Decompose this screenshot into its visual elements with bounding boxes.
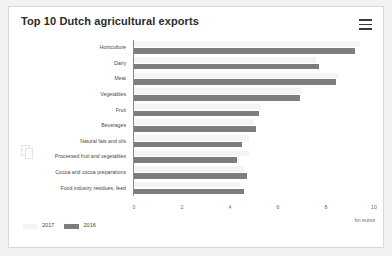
bar-group xyxy=(133,87,377,103)
menu-line-1 xyxy=(359,19,372,21)
category-row: Horticulture xyxy=(9,40,131,56)
bar-group xyxy=(133,165,377,181)
category-row: Food industry residues, feed xyxy=(9,180,131,196)
category-label: Natural fats and oils xyxy=(80,139,126,144)
bar-group xyxy=(133,40,377,56)
chart-page: Top 10 Dutch agricultural exports Hortic… xyxy=(0,0,392,256)
category-row: Fruit xyxy=(9,102,131,118)
bar-2017[interactable] xyxy=(134,57,316,63)
category-label: Dairy xyxy=(114,61,126,66)
bar-2016[interactable] xyxy=(134,142,242,148)
category-label: Fruit xyxy=(116,108,126,113)
bar-2016[interactable] xyxy=(134,126,256,132)
bar-2016[interactable] xyxy=(134,95,300,101)
category-row: Meat xyxy=(9,71,131,87)
bar-2016[interactable] xyxy=(134,189,244,195)
bar-2017[interactable] xyxy=(134,41,360,47)
axis-tick: 8 xyxy=(325,205,328,210)
chart-legend: 20172016 xyxy=(23,223,96,229)
category-label: Horticulture xyxy=(99,45,126,50)
category-label: Cocoa and cocoa preparations xyxy=(55,170,126,175)
bar-group xyxy=(133,149,377,165)
plot-area: HorticultureDairyMeatVegetablesFruitBeve… xyxy=(9,37,385,207)
bar-2016[interactable] xyxy=(134,111,259,117)
bars-container xyxy=(133,40,377,200)
bar-2016[interactable] xyxy=(134,48,355,54)
axis-tick: 2 xyxy=(181,205,184,210)
category-row: Dairy xyxy=(9,56,131,72)
bar-group xyxy=(133,180,377,196)
bar-group xyxy=(133,71,377,87)
bar-2017[interactable] xyxy=(134,182,240,188)
bar-2017[interactable] xyxy=(134,73,338,79)
legend-label: 2017 xyxy=(42,223,54,229)
category-row: Cocoa and cocoa preparations xyxy=(9,165,131,181)
axis-title: bn euros xyxy=(355,217,375,223)
bar-group xyxy=(133,134,377,150)
legend-item-2017[interactable]: 2017 xyxy=(23,223,54,229)
bar-2016[interactable] xyxy=(134,79,336,85)
cbs-logo-watermark xyxy=(21,145,32,158)
bar-group xyxy=(133,118,377,134)
category-row: Beverages xyxy=(9,118,131,134)
bar-2017[interactable] xyxy=(134,88,302,94)
legend-swatch xyxy=(23,224,38,229)
category-row: Vegetables xyxy=(9,87,131,103)
category-label: Vegetables xyxy=(100,92,126,97)
axis-tick: 0 xyxy=(133,205,136,210)
bar-2017[interactable] xyxy=(134,151,249,157)
bar-2016[interactable] xyxy=(134,157,237,163)
axis-tick: 4 xyxy=(229,205,232,210)
watermark-shape-2 xyxy=(25,148,33,159)
panel-header: Top 10 Dutch agricultural exports xyxy=(9,7,383,37)
bar-2017[interactable] xyxy=(134,119,254,125)
legend-label: 2016 xyxy=(83,223,95,229)
legend-item-2016[interactable]: 2016 xyxy=(64,223,95,229)
bar-group xyxy=(133,102,377,118)
menu-line-2 xyxy=(359,24,372,26)
legend-swatch xyxy=(64,224,79,229)
category-label: Beverages xyxy=(101,123,126,128)
category-label: Processed fruit and vegetables xyxy=(55,154,126,159)
bar-2017[interactable] xyxy=(134,104,261,110)
bar-2016[interactable] xyxy=(134,173,247,179)
value-axis-ticks: 0246810 xyxy=(133,205,377,217)
category-axis-labels: HorticultureDairyMeatVegetablesFruitBeve… xyxy=(9,40,131,196)
bar-2017[interactable] xyxy=(134,166,244,172)
category-label: Meat xyxy=(114,76,126,81)
bar-2016[interactable] xyxy=(134,64,319,70)
axis-tick: 10 xyxy=(371,205,377,210)
bar-2017[interactable] xyxy=(134,135,249,141)
bar-group xyxy=(133,56,377,72)
hamburger-menu-icon[interactable] xyxy=(359,19,372,30)
category-label: Food industry residues, feed xyxy=(61,186,126,191)
menu-line-3 xyxy=(359,28,372,30)
page-title: Top 10 Dutch agricultural exports xyxy=(21,15,199,27)
axis-tick: 6 xyxy=(277,205,280,210)
chart-panel: Top 10 Dutch agricultural exports Hortic… xyxy=(8,6,384,248)
